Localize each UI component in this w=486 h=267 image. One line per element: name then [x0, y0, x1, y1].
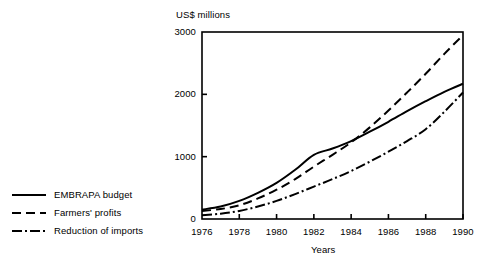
series-line-farmers-profits [202, 35, 463, 211]
legend-item-farmers-profits: Farmers' profits [12, 204, 172, 222]
chart-figure: US$ millions Years 0100020003000 1976197… [0, 0, 486, 267]
legend-label-reduction-of-imports: Reduction of imports [54, 225, 143, 237]
legend-label-embrapa-budget: EMBRAPA budget [54, 189, 132, 201]
x-tick-label: 1976 [182, 226, 222, 237]
chart-legend: EMBRAPA budget Farmers' profits Reductio… [12, 186, 172, 240]
series-line-embrapa-budget [202, 84, 463, 210]
y-tick-label: 1000 [158, 151, 196, 162]
legend-swatch-solid-icon [12, 189, 46, 201]
legend-label-farmers-profits: Farmers' profits [54, 207, 121, 219]
plot-frame-rect [202, 32, 463, 219]
y-tick-label: 2000 [158, 88, 196, 99]
data-series-group [202, 35, 463, 215]
plot-frame [202, 32, 463, 219]
x-tick-label: 1986 [368, 226, 408, 237]
legend-swatch-dashdot-icon [12, 225, 46, 237]
x-tick-label: 1978 [219, 226, 259, 237]
x-tick-label: 1990 [443, 226, 483, 237]
x-tick-label: 1982 [294, 226, 334, 237]
x-tick-label: 1984 [331, 226, 371, 237]
legend-swatch-dashed-icon [12, 207, 46, 219]
y-tick-label: 3000 [158, 26, 196, 37]
y-axis-title: US$ millions [176, 9, 230, 20]
x-tick-label: 1988 [406, 226, 446, 237]
legend-item-reduction-of-imports: Reduction of imports [12, 222, 172, 240]
legend-item-embrapa-budget: EMBRAPA budget [12, 186, 172, 204]
x-axis-title: Years [311, 244, 335, 255]
x-tick-label: 1980 [257, 226, 297, 237]
